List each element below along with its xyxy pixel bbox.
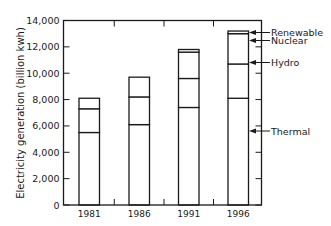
y-tick-label: 10,000 (26, 68, 59, 79)
x-tick-label: 1996 (227, 209, 250, 219)
y-tick-label: 0 (53, 200, 59, 211)
legend-item-nuclear: Nuclear (249, 35, 308, 46)
bar-segment-thermal (228, 98, 249, 205)
bar-segment-thermal (179, 107, 200, 205)
y-axis-title: Electricity generation (billion kwh) (15, 27, 26, 199)
arrow-head-icon (249, 129, 256, 134)
legend-item-hydro: Hydro (249, 57, 299, 68)
x-tick-label: 1981 (78, 209, 101, 219)
arrow-head-icon (249, 60, 256, 65)
stacked-bar-chart: Electricity generation (billion kwh) 02,… (0, 0, 331, 226)
legend-item-thermal: Thermal (249, 126, 310, 137)
bar-segment-nuclear (228, 34, 249, 64)
y-tick-label: 14,000 (26, 15, 59, 26)
bar-segment-hydro (79, 109, 100, 133)
legend-label: Hydro (271, 57, 299, 68)
y-tick-label: 6,000 (32, 120, 59, 131)
bars (79, 31, 249, 205)
x-axis-labels: 1981198619911996 (78, 21, 250, 220)
bar-segment-thermal (79, 133, 100, 205)
bar-1996 (228, 31, 249, 205)
legend-label: Thermal (270, 126, 310, 137)
x-tick-label: 1991 (177, 209, 200, 219)
bar-segment-nuclear (179, 52, 200, 78)
bar-1991 (179, 49, 200, 205)
y-axis-label: Electricity generation (billion kwh) (15, 27, 26, 199)
arrow-head-icon (249, 38, 256, 43)
bar-segment-nuclear (129, 77, 150, 97)
bar-1986 (129, 77, 150, 205)
bar-segment-renewable (179, 49, 200, 52)
y-tick-label: 2,000 (32, 173, 59, 184)
y-tick-label: 8,000 (32, 94, 59, 105)
arrow-head-icon (249, 30, 256, 35)
bar-segment-nuclear (79, 98, 100, 109)
legend-label: Nuclear (271, 35, 308, 46)
y-tick-label: 12,000 (26, 41, 59, 52)
bar-segment-thermal (129, 125, 150, 205)
bar-1981 (79, 98, 100, 205)
bar-segment-hydro (179, 78, 200, 107)
legend-arrows: RenewableNuclearHydroThermal (249, 27, 323, 137)
bar-segment-hydro (129, 97, 150, 125)
bar-segment-renewable (228, 31, 249, 34)
x-tick-label: 1986 (128, 209, 151, 219)
bar-segment-hydro (228, 64, 249, 98)
y-tick-label: 4,000 (32, 147, 59, 158)
